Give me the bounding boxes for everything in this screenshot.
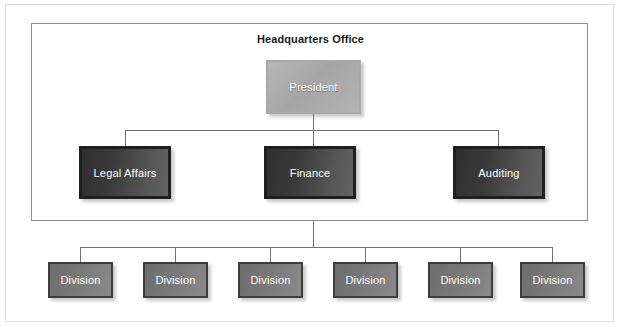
connector-drop-division-1 [80,247,81,263]
connector-drop-finance [313,130,314,147]
connector-drop-legal-affairs [125,130,126,147]
connector-drop-division-2 [175,247,176,263]
connector-president-drop [313,114,314,131]
node-legal-affairs[interactable]: Legal Affairs [79,146,171,199]
node-president[interactable]: President [266,60,361,114]
org-chart-canvas: Headquarters Office President Legal Affa… [0,0,620,327]
node-division-1[interactable]: Division [48,262,113,298]
node-division-3[interactable]: Division [238,262,303,298]
node-division-4[interactable]: Division [333,262,398,298]
connector-division-bus [80,247,553,248]
connector-drop-division-3 [270,247,271,263]
node-division-5[interactable]: Division [428,262,493,298]
connector-department-bus [125,130,498,131]
connector-headquarters-drop [313,221,314,247]
connector-drop-division-6 [552,247,553,263]
connector-drop-division-5 [460,247,461,263]
headquarters-office-title: Headquarters Office [32,33,589,45]
connector-drop-division-4 [365,247,366,263]
node-division-2[interactable]: Division [143,262,208,298]
connector-drop-auditing [498,130,499,147]
node-auditing[interactable]: Auditing [453,146,545,199]
node-division-6[interactable]: Division [520,262,585,298]
node-finance[interactable]: Finance [264,146,356,199]
